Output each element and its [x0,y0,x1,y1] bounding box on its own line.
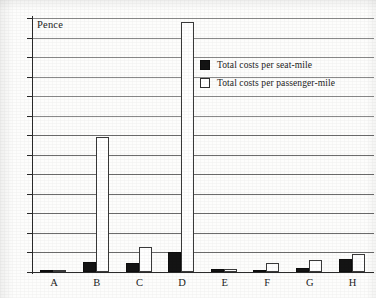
bar-H-seat-mile [339,259,352,272]
x-axis-label-E: E [210,277,240,288]
bar-G-passenger-mile [309,260,322,272]
bar-A-passenger-mile [53,270,66,272]
bar-D-seat-mile [168,252,181,272]
bar-C-passenger-mile [139,247,152,272]
x-axis-label-G: G [295,277,325,288]
bar-E-passenger-mile [224,269,237,272]
bar-chart-figure: Pence 024c8101214161820222426 ABCDEFGH T… [0,0,376,298]
legend-item-passenger-mile: Total costs per passenger-mile [200,75,335,91]
bar-H-passenger-mile [352,254,365,272]
x-axis-label-D: D [167,277,197,288]
bar-B-seat-mile [83,262,96,272]
legend-swatch-filled-icon [200,60,210,70]
x-axis-label-B: B [82,277,112,288]
bar-D-passenger-mile [181,22,194,272]
bar-E-seat-mile [211,269,224,272]
bar-F-passenger-mile [266,263,279,272]
legend-label-seat-mile: Total costs per seat-mile [217,60,312,70]
legend-swatch-outline-icon [200,78,210,88]
x-axis-label-A: A [39,277,69,288]
legend-item-seat-mile: Total costs per seat-mile [200,57,335,73]
bar-G-seat-mile [296,268,309,272]
bar-B-passenger-mile [96,137,109,272]
x-axis-label-C: C [125,277,155,288]
bar-C-seat-mile [126,263,139,272]
y-tick-0 [27,272,33,273]
x-axis-line [32,272,374,273]
x-axis-label-H: H [338,277,368,288]
legend-label-passenger-mile: Total costs per passenger-mile [217,78,335,88]
bar-F-seat-mile [253,270,266,272]
bar-A-seat-mile [40,270,53,272]
chart-legend: Total costs per seat-mile Total costs pe… [200,57,335,93]
x-axis-label-F: F [252,277,282,288]
